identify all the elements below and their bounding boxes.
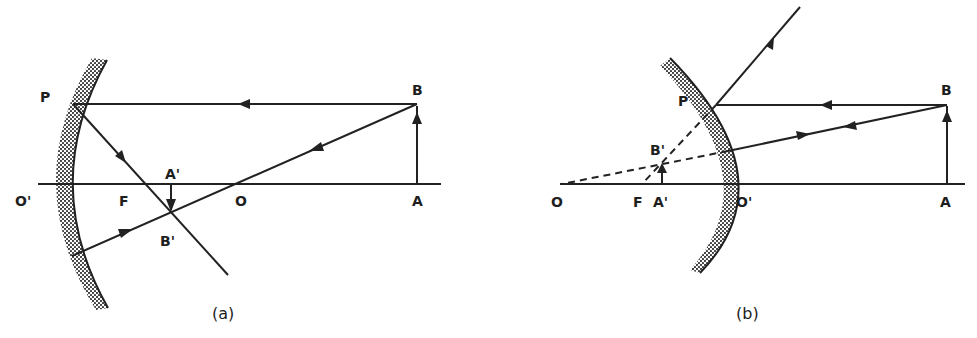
label-O: O <box>235 193 247 209</box>
ray-arrowhead-icon <box>309 142 324 151</box>
ray-reflected-diverging <box>716 7 800 105</box>
caption-a: (a) <box>212 304 234 323</box>
label-F: F <box>633 194 643 210</box>
panel-b: P B B' O F A' O' A (b) <box>551 7 965 323</box>
label-B-prime: B' <box>160 233 175 249</box>
label-P: P <box>678 93 688 109</box>
label-F: F <box>119 193 129 209</box>
label-O-prime: O' <box>736 194 752 210</box>
label-P: P <box>40 89 50 105</box>
ray-arrowhead-icon <box>796 131 810 140</box>
caption-b: (b) <box>736 304 759 323</box>
label-A: A <box>940 194 951 210</box>
label-A-prime: A' <box>165 166 180 182</box>
object-arrowhead-icon <box>412 112 422 124</box>
label-B: B <box>412 82 423 98</box>
virtual-ray-to-center <box>562 151 728 184</box>
image-arrowhead-icon <box>657 163 667 173</box>
label-A-prime: A' <box>653 194 668 210</box>
label-O-prime: O' <box>15 193 31 209</box>
label-B-prime: B' <box>650 142 665 158</box>
ray-arrowhead-icon <box>820 100 832 110</box>
label-O: O <box>551 194 563 210</box>
ray-arrowhead-icon <box>766 37 774 50</box>
ray-toward-center <box>728 105 947 151</box>
mirror-ray-diagram: P B O' F A' O A B' (a) <box>0 0 977 338</box>
panel-a: P B O' F A' O A B' (a) <box>15 58 441 323</box>
object-arrowhead-icon <box>942 110 952 122</box>
ray-reflected-through-focus <box>73 104 228 275</box>
ray-arrowhead-icon <box>238 99 250 109</box>
label-A: A <box>412 193 423 209</box>
ray-arrowhead-icon <box>118 229 133 238</box>
label-B: B <box>941 82 952 98</box>
